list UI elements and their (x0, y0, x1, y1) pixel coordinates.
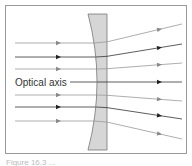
figure-caption: Figure 16.3 ... (6, 158, 55, 166)
optical-axis-label: Optical axis (15, 77, 67, 88)
diverging-lens-diagram: Optical axis (0, 0, 192, 166)
